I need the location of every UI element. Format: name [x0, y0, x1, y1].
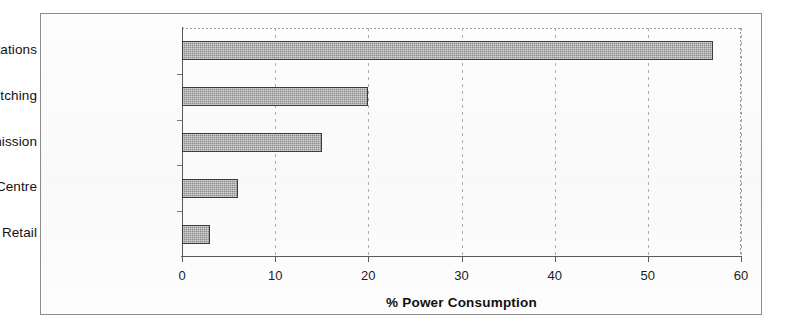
- x-tick-label-30: 30: [454, 268, 468, 283]
- x-tick-label-20: 20: [361, 268, 375, 283]
- x-tick-20: [368, 257, 369, 262]
- category-label-core-transmission: Core Transmission: [0, 134, 37, 149]
- gridline-20: [368, 28, 369, 257]
- y-tick-2: [177, 120, 182, 121]
- x-tick-50: [648, 257, 649, 262]
- x-tick-label-50: 50: [641, 268, 655, 283]
- x-tick-label-0: 0: [178, 268, 185, 283]
- x-axis-title: % Power Consumption: [182, 295, 741, 310]
- bar-base-stations[interactable]: [182, 41, 713, 60]
- x-tick-label-60: 60: [734, 268, 748, 283]
- bar-core-transmission[interactable]: [182, 133, 322, 152]
- category-label-data-centre: Data Centre: [0, 179, 37, 194]
- gridline-40: [555, 28, 556, 257]
- x-tick-label-40: 40: [547, 268, 561, 283]
- bar-retail[interactable]: [182, 225, 210, 244]
- category-label-base-stations: Base Stations: [0, 42, 37, 57]
- bar-data-centre[interactable]: [182, 179, 238, 198]
- x-tick-10: [275, 257, 276, 262]
- y-tick-3: [177, 165, 182, 166]
- gridline-30: [462, 28, 463, 257]
- bar-mobile-switching[interactable]: [182, 87, 368, 106]
- gridline-60: [741, 28, 742, 257]
- gridline-50: [648, 28, 649, 257]
- category-label-retail: Retail: [2, 225, 37, 240]
- category-label-mobile-switching: Mobile Switching: [0, 88, 37, 103]
- x-tick-label-10: 10: [268, 268, 282, 283]
- x-tick-30: [462, 257, 463, 262]
- y-tick-4: [177, 211, 182, 212]
- x-tick-40: [555, 257, 556, 262]
- x-tick-0: [182, 257, 183, 262]
- y-tick-1: [177, 74, 182, 75]
- x-tick-60: [741, 257, 742, 262]
- figure-frame: Base StationsMobile SwitchingCore Transm…: [40, 13, 762, 315]
- plot-area: 0102030405060: [182, 28, 741, 257]
